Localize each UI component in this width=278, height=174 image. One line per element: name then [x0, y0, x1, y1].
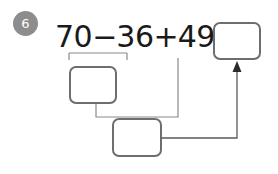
grouping-bracket	[69, 53, 127, 60]
operand-first: 70	[55, 19, 92, 54]
connector-difference-to-sum	[96, 104, 137, 117]
operator-minus: −	[92, 19, 116, 54]
equation-expression: 70−36+49=	[55, 20, 239, 54]
up-arrow-icon	[233, 61, 242, 72]
partial-sum-box[interactable]	[112, 118, 162, 157]
partial-difference-box[interactable]	[69, 66, 117, 104]
operand-second: 36	[116, 19, 153, 54]
operand-third: 49	[178, 19, 215, 54]
final-answer-box[interactable]	[213, 22, 261, 60]
connector-sum-to-result	[162, 70, 237, 138]
connector-fortynine-to-sum	[137, 58, 178, 117]
problem-number-badge: 6	[13, 11, 38, 36]
operator-plus: +	[154, 19, 178, 54]
worksheet-problem-canvas: 6 70−36+49=	[0, 0, 278, 174]
